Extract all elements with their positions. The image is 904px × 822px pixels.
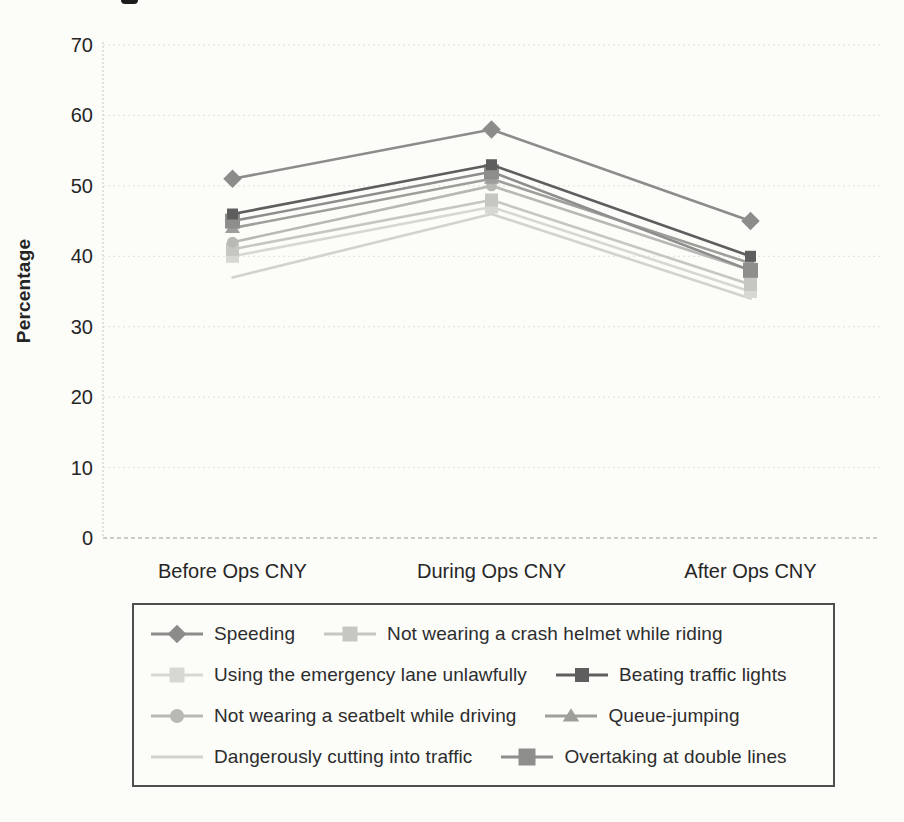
series-marker-speeding-0 [223, 170, 242, 189]
beating-traffic-lights-square-icon [553, 662, 611, 688]
y-tick-label-30: 30 [71, 316, 93, 338]
series-marker-beating-traffic-lights-1 [486, 159, 497, 170]
legend-row: Dangerously cutting into trafficOvertaki… [148, 744, 827, 770]
legend-label-not-wearing-a-crash-helmet-while-riding: Not wearing a crash helmet while riding [387, 623, 723, 645]
legend-row: Not wearing a seatbelt while drivingQueu… [148, 703, 827, 729]
legend-label-dangerously-cutting-into-traffic: Dangerously cutting into traffic [214, 746, 472, 768]
series-line-queue-jumping [233, 179, 751, 264]
x-category-label-0: Before Ops CNY [158, 560, 307, 582]
queue-jumping-triangle-icon [542, 703, 600, 729]
y-tick-label-60: 60 [71, 104, 93, 126]
legend-item-beating-traffic-lights: Beating traffic lights [553, 662, 787, 688]
x-category-label-2: After Ops CNY [684, 560, 816, 582]
chart-legend: SpeedingNot wearing a crash helmet while… [132, 603, 835, 787]
not-wearing-a-seatbelt-while-driving-circle-icon [148, 703, 206, 729]
y-axis-title: Percentage [13, 226, 35, 356]
legend-row: SpeedingNot wearing a crash helmet while… [148, 621, 827, 647]
y-tick-label-10: 10 [71, 457, 93, 479]
legend-row: Using the emergency lane unlawfullyBeati… [148, 662, 827, 688]
legend-item-not-wearing-a-seatbelt-while-driving: Not wearing a seatbelt while driving [148, 703, 516, 729]
not-wearing-a-crash-helmet-while-riding-square-icon [321, 621, 379, 647]
series-line-dangerously-cutting-into-traffic [233, 214, 751, 299]
y-tick-label-40: 40 [71, 245, 93, 267]
legend-label-using-the-emergency-lane-unlawfully: Using the emergency lane unlawfully [214, 664, 527, 686]
x-category-label-1: During Ops CNY [417, 560, 566, 582]
overtaking-at-double-lines-square-icon [498, 744, 556, 770]
legend-item-speeding: Speeding [148, 621, 295, 647]
legend-label-beating-traffic-lights: Beating traffic lights [619, 664, 787, 686]
legend-label-queue-jumping: Queue-jumping [608, 705, 739, 727]
series-marker-not-wearing-a-crash-helmet-while-riding-2 [744, 278, 757, 291]
legend-label-overtaking-at-double-lines: Overtaking at double lines [564, 746, 786, 768]
y-tick-label-50: 50 [71, 175, 93, 197]
plot-area: 010203040506070Before Ops CNYDuring Ops … [0, 0, 904, 600]
series-marker-not-wearing-a-crash-helmet-while-riding-1 [485, 193, 498, 206]
legend-label-not-wearing-a-seatbelt-while-driving: Not wearing a seatbelt while driving [214, 705, 516, 727]
legend-item-queue-jumping: Queue-jumping [542, 703, 739, 729]
legend-item-overtaking-at-double-lines: Overtaking at double lines [498, 744, 786, 770]
legend-label-speeding: Speeding [214, 623, 295, 645]
series-marker-beating-traffic-lights-0 [227, 209, 238, 220]
legend-item-using-the-emergency-lane-unlawfully: Using the emergency lane unlawfully [148, 662, 527, 688]
series-marker-speeding-1 [482, 120, 501, 139]
speeding-diamond-icon [148, 621, 206, 647]
y-tick-label-20: 20 [71, 386, 93, 408]
y-tick-label-70: 70 [71, 34, 93, 56]
series-marker-not-wearing-a-seatbelt-while-driving-0 [227, 237, 238, 248]
legend-item-not-wearing-a-crash-helmet-while-riding: Not wearing a crash helmet while riding [321, 621, 723, 647]
line-chart: Percentage 010203040506070Before Ops CNY… [0, 0, 904, 600]
series-line-using-the-emergency-lane-unlawfully [233, 207, 751, 292]
scanned-chart-page: Percentage 010203040506070Before Ops CNY… [0, 0, 904, 822]
using-the-emergency-lane-unlawfully-square-icon [148, 662, 206, 688]
y-tick-label-0: 0 [82, 527, 93, 549]
dangerously-cutting-into-traffic-line-icon [148, 744, 206, 770]
legend-item-dangerously-cutting-into-traffic: Dangerously cutting into traffic [148, 744, 472, 770]
series-marker-speeding-2 [741, 212, 760, 231]
series-marker-overtaking-at-double-lines-2 [743, 263, 758, 278]
series-marker-beating-traffic-lights-2 [745, 251, 756, 262]
